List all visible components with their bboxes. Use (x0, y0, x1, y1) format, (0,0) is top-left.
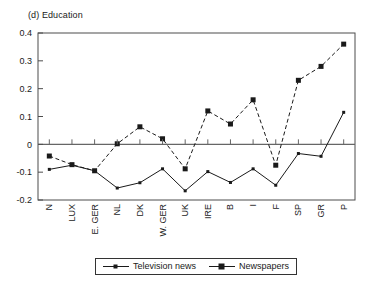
legend-item-television-news: Television news (103, 261, 196, 271)
x-tick-label: DK (135, 204, 145, 217)
legend-label-newspapers: Newspapers (239, 261, 289, 271)
legend-label-television-news: Television news (133, 261, 196, 271)
x-tick-label: E. GER (90, 204, 100, 235)
legend-marker-solid-line (103, 262, 129, 271)
chart-figure: (d) Education 0.40.30.20.10-0.1-0.2 NLUX… (0, 0, 373, 289)
axes (38, 33, 355, 200)
plot-area: 0.40.30.20.10-0.1-0.2 (0, 24, 373, 209)
y-tick-label: 0.2 (19, 84, 32, 94)
data-point-marker (69, 162, 74, 167)
x-tick-label: W. GER (158, 204, 168, 237)
data-point-marker (48, 168, 51, 171)
series-line (49, 44, 343, 171)
data-point-marker (116, 187, 119, 190)
data-point-marker (229, 181, 232, 184)
data-point-marker (342, 111, 345, 114)
data-point-marker (341, 42, 346, 47)
data-point-marker (274, 184, 277, 187)
y-tick-label: 0.1 (19, 112, 32, 122)
data-point-marker (184, 189, 187, 192)
data-point-marker (297, 152, 300, 155)
data-point-marker (296, 78, 301, 83)
y-tick-label: -0.1 (16, 167, 32, 177)
x-tick-label: LUX (67, 204, 77, 222)
data-series (47, 42, 346, 193)
chart-title: (d) Education (28, 10, 83, 20)
x-tick-label: SP (293, 204, 303, 216)
data-point-marker (138, 181, 141, 184)
data-point-marker (206, 170, 209, 173)
x-tick-label: IRE (203, 204, 213, 219)
x-tick-label: GR (316, 204, 326, 218)
x-tick-label: P (339, 204, 349, 210)
legend-marker-dashed-line (209, 262, 235, 271)
data-point-marker (92, 168, 97, 173)
x-tick-label: N (44, 204, 54, 211)
legend-item-newspapers: Newspapers (209, 261, 289, 271)
chart-legend: Television news Newspapers (95, 258, 297, 275)
y-axis-ticks: 0.40.30.20.10-0.1-0.2 (16, 28, 43, 205)
x-tick-label: B (225, 204, 235, 210)
data-point-marker (228, 122, 233, 127)
y-tick-label: 0.4 (19, 28, 32, 38)
x-tick-label: I (248, 204, 258, 207)
data-point-marker (47, 154, 52, 159)
y-tick-label: 0.3 (19, 56, 32, 66)
data-point-marker (183, 166, 188, 171)
x-tick-label: NL (112, 204, 122, 216)
y-tick-label: 0 (27, 140, 32, 150)
data-point-marker (320, 155, 323, 158)
data-point-marker (319, 64, 324, 69)
x-tick-label: F (271, 204, 281, 210)
data-point-marker (161, 167, 164, 170)
line-chart-svg: 0.40.30.20.10-0.1-0.2 (0, 24, 373, 209)
y-tick-label: -0.2 (16, 195, 32, 205)
data-point-marker (273, 163, 278, 168)
data-point-marker (252, 167, 255, 170)
data-point-marker (251, 97, 256, 102)
data-point-marker (137, 124, 142, 129)
series-line (49, 112, 343, 190)
x-tick-label: UK (180, 204, 190, 217)
data-point-marker (205, 108, 210, 113)
